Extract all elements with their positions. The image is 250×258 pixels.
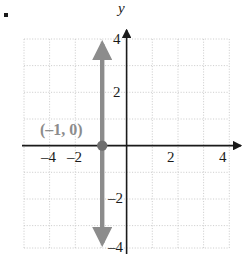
point-annotation-label: (–1, 0) (40, 122, 83, 138)
x-tick-label-2: 2 (167, 150, 175, 165)
y-tick-label-4: 4 (113, 32, 121, 47)
y-tick-label--4: –4 (108, 240, 123, 255)
x-tick-label-4: 4 (219, 150, 227, 165)
x-tick-label--2: –2 (67, 150, 82, 165)
plotted-point-marker (97, 140, 107, 150)
coordinate-plane (0, 0, 250, 258)
y-axis-label: y (118, 0, 125, 16)
y-tick-label-2: 2 (113, 85, 121, 100)
graph-figure: y –4 –2 2 4 4 2 –2 –4 (–1, 0) (0, 0, 250, 258)
x-tick-label--4: –4 (41, 150, 56, 165)
y-tick-label--2: –2 (108, 191, 123, 206)
